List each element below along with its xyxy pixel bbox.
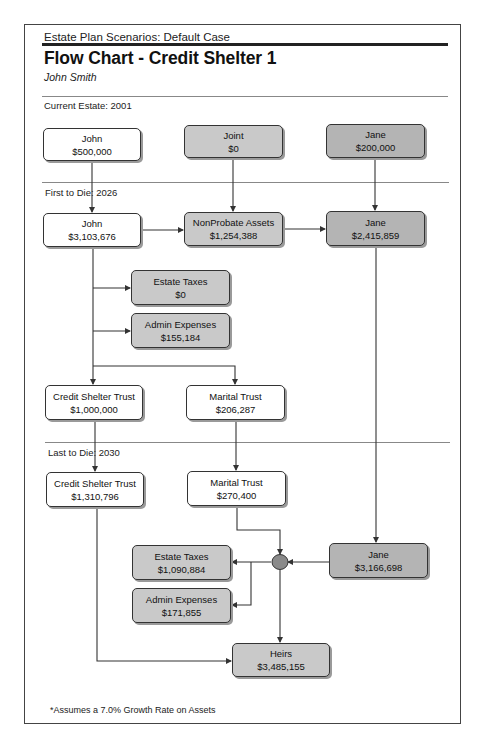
node-value: $2,415,859 [327, 229, 424, 242]
node-value: $0 [132, 288, 229, 301]
node-value: $1,000,000 [46, 403, 142, 416]
node-value: $206,287 [187, 403, 284, 416]
node-admin-expenses-last: Admin Expenses $171,855 [132, 588, 231, 623]
node-estate-taxes-last: Estate Taxes $1,090,884 [132, 545, 231, 580]
footnote: *Assumes a 7.0% Growth Rate on Assets [50, 705, 216, 715]
node-label: Marital Trust [187, 390, 284, 403]
node-credit-shelter-first: Credit Shelter Trust $1,000,000 [45, 385, 143, 420]
node-value: $171,855 [133, 606, 230, 619]
node-jane-last: Jane $3,166,698 [329, 543, 428, 578]
node-nonprobate-first: NonProbate Assets $1,254,388 [184, 212, 283, 246]
node-value: $500,000 [44, 145, 140, 158]
node-label: John [44, 132, 140, 145]
node-label: Jane [327, 216, 424, 229]
node-label: Estate Taxes [133, 550, 230, 563]
node-jane-current: Jane $200,000 [326, 124, 425, 158]
node-label: Jane [330, 548, 427, 561]
node-john-current: John $500,000 [43, 128, 141, 161]
node-label: Credit Shelter Trust [47, 477, 143, 490]
connector-lines [0, 0, 488, 755]
node-value: $155,184 [132, 331, 229, 344]
node-label: Admin Expenses [133, 593, 230, 606]
node-value: $3,485,155 [233, 660, 329, 673]
node-value: $1,310,796 [47, 490, 143, 503]
node-heirs: Heirs $3,485,155 [232, 643, 330, 677]
node-label: Jane [327, 128, 424, 141]
node-label: NonProbate Assets [185, 216, 282, 229]
node-label: Credit Shelter Trust [46, 390, 142, 403]
node-label: Joint [185, 129, 282, 142]
node-label: Marital Trust [188, 476, 285, 489]
node-label: Heirs [233, 647, 329, 660]
node-john-first: John $3,103,676 [43, 213, 141, 247]
node-value: $3,103,676 [44, 230, 140, 243]
node-value: $3,166,698 [330, 561, 427, 574]
node-joint-current: Joint $0 [184, 125, 283, 158]
node-estate-taxes-first: Estate Taxes $0 [131, 270, 230, 305]
node-value: $0 [185, 142, 282, 155]
node-value: $200,000 [327, 141, 424, 154]
node-label: John [44, 217, 140, 230]
node-marital-last: Marital Trust $270,400 [187, 471, 286, 506]
node-label: Admin Expenses [132, 318, 229, 331]
node-admin-expenses-first: Admin Expenses $155,184 [131, 313, 230, 348]
node-value: $270,400 [188, 489, 285, 502]
node-value: $1,090,884 [133, 563, 230, 576]
node-credit-shelter-last: Credit Shelter Trust $1,310,796 [46, 472, 144, 507]
node-jane-first: Jane $2,415,859 [326, 211, 425, 246]
node-label: Estate Taxes [132, 275, 229, 288]
node-marital-first: Marital Trust $206,287 [186, 385, 285, 420]
merge-node [272, 555, 288, 570]
node-value: $1,254,388 [185, 229, 282, 242]
